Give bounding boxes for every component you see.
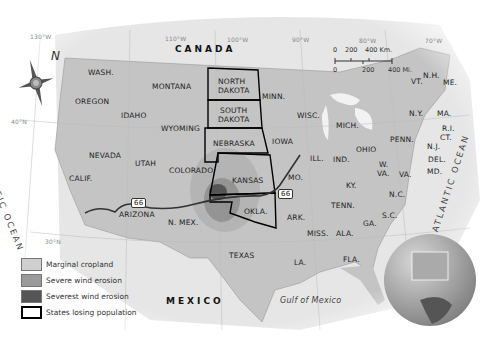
state-montana: MONTANA xyxy=(152,82,191,91)
dust-bowl-map: CANADA MEXICO PACIFIC OCEAN ATLANTIC OCE… xyxy=(0,0,483,353)
state-south-dakota-2: DAKOTA xyxy=(218,115,250,124)
canada-label: CANADA xyxy=(175,44,236,54)
state-wisc: WISC. xyxy=(297,111,320,120)
state-ri: R.I. xyxy=(442,124,455,133)
legend-item-states-losing-population: States losing population xyxy=(21,304,137,320)
state-utah: UTAH xyxy=(135,159,156,168)
lon-110-label: 110°W xyxy=(165,35,186,42)
legend-label: Severest wind erosion xyxy=(46,292,129,301)
legend-item-severest-wind-erosion: Severest wind erosion xyxy=(21,288,137,304)
state-la: LA. xyxy=(294,258,306,267)
state-colorado: COLORADO xyxy=(169,166,213,175)
state-ill: ILL. xyxy=(310,154,324,163)
legend-label: States losing population xyxy=(46,308,137,317)
state-va: VA. xyxy=(399,170,412,179)
state-nebraska: NEBRASKA xyxy=(213,139,255,148)
state-ma: MA. xyxy=(437,109,451,118)
state-texas: TEXAS xyxy=(229,251,254,260)
legend-item-severe-wind-erosion: Severe wind erosion xyxy=(21,272,137,288)
state-ga: GA. xyxy=(363,219,377,228)
state-south-dakota-1: SOUTH xyxy=(220,106,247,115)
state-north-dakota-2: DAKOTA xyxy=(218,86,250,95)
lon-100-label: 100°W xyxy=(227,36,248,43)
state-nh: N.H. xyxy=(423,71,440,80)
lon-70-label: 70°W xyxy=(425,37,442,44)
scale-mi-200: 200 xyxy=(362,66,374,74)
state-minn: MINN. xyxy=(262,92,285,101)
gulf-of-mexico-label: Gulf of Mexico xyxy=(280,296,341,305)
route-66-shield-east: 66 xyxy=(278,189,293,199)
state-vt: VT. xyxy=(411,77,423,86)
legend-label: Marginal cropland xyxy=(46,260,113,269)
scale-mi-400: 400 Mi. xyxy=(388,66,412,74)
scale-mi-0: 0 xyxy=(333,66,337,74)
lon-90-label: 90°W xyxy=(292,36,309,43)
state-ind: IND. xyxy=(333,155,350,164)
state-fla: FLA. xyxy=(343,255,360,264)
state-ct: CT. xyxy=(440,133,452,142)
state-mo: MO. xyxy=(288,173,303,182)
state-ohio: OHIO xyxy=(356,145,376,154)
route-66-shield-west: 66 xyxy=(131,198,146,208)
state-kansas: KANSAS xyxy=(232,176,264,185)
state-oregon: OREGON xyxy=(75,97,109,106)
state-iowa: IOWA xyxy=(272,137,293,146)
state-okla: OKLA. xyxy=(244,207,268,216)
state-north-dakota-1: NORTH xyxy=(218,77,245,86)
state-md: MD. xyxy=(427,167,442,176)
state-del: DEL. xyxy=(428,155,446,164)
state-wash: WASH. xyxy=(88,68,114,77)
scale-km-400: 400 Km. xyxy=(365,46,392,54)
severe-wind-erosion-swatch xyxy=(21,274,42,287)
mexico-label: MEXICO xyxy=(166,296,224,306)
state-wva-1: W. xyxy=(379,160,388,169)
state-ark: ARK. xyxy=(287,213,305,222)
state-nevada: NEVADA xyxy=(89,151,121,160)
state-wva-2: VA. xyxy=(377,169,390,178)
severest-wind-erosion-swatch xyxy=(21,290,42,303)
state-sc: S.C. xyxy=(382,211,398,220)
marginal-cropland-swatch xyxy=(21,258,42,271)
compass-north-label: N xyxy=(51,49,60,63)
lon-130-label: 130°W xyxy=(30,33,51,40)
state-me: ME. xyxy=(443,78,457,87)
state-mich: MICH. xyxy=(336,121,359,130)
lat-40-label: 40°N xyxy=(11,118,27,125)
lon-80-label: 80°W xyxy=(359,37,376,44)
state-wyoming: WYOMING xyxy=(161,124,200,133)
state-ny: N.Y. xyxy=(409,109,423,118)
states-losing-population-swatch xyxy=(21,306,42,319)
lat-30-label: 30°N xyxy=(45,238,61,245)
state-n-mex: N. MEX. xyxy=(168,218,199,227)
state-miss: MISS. xyxy=(307,229,329,238)
locator-inset-box xyxy=(412,252,448,280)
state-calif: CALIF. xyxy=(69,174,92,183)
legend-item-marginal-cropland: Marginal cropland xyxy=(21,256,137,272)
state-ala: ALA. xyxy=(336,229,354,238)
state-arizona: ARIZONA xyxy=(119,210,155,219)
state-ky: KY. xyxy=(346,181,357,190)
state-nj: N.J. xyxy=(427,142,440,151)
map-legend: Marginal cropland Severe wind erosion Se… xyxy=(21,256,137,320)
state-penn: PENN. xyxy=(390,135,414,144)
legend-label: Severe wind erosion xyxy=(46,276,122,285)
state-idaho: IDAHO xyxy=(121,111,147,120)
scale-km-200: 200 xyxy=(345,46,357,54)
state-nc: N.C. xyxy=(389,190,405,199)
state-tenn: TENN. xyxy=(331,201,355,210)
scale-km-0: 0 xyxy=(333,46,337,54)
